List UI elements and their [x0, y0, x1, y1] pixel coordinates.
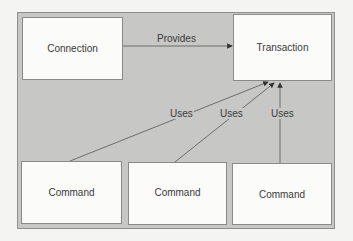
- command-box-2: Command: [128, 162, 227, 225]
- command-label-2: Command: [154, 187, 200, 198]
- uses-arrow-1: [70, 82, 268, 161]
- command-label-3: Command: [259, 189, 305, 200]
- uses-label-3: Uses: [270, 108, 295, 119]
- connection-box: Connection: [22, 17, 123, 80]
- provides-label: Provides: [157, 33, 196, 44]
- uses-label-2: Uses: [219, 108, 244, 119]
- transaction-box: Transaction: [233, 14, 332, 81]
- connection-label: Connection: [47, 43, 98, 54]
- command-box-3: Command: [232, 163, 332, 225]
- command-box-1: Command: [21, 161, 122, 224]
- command-label-1: Command: [48, 187, 94, 198]
- uses-label-1: Uses: [169, 108, 194, 119]
- uses-arrow-2: [175, 83, 274, 162]
- transaction-label: Transaction: [257, 42, 309, 53]
